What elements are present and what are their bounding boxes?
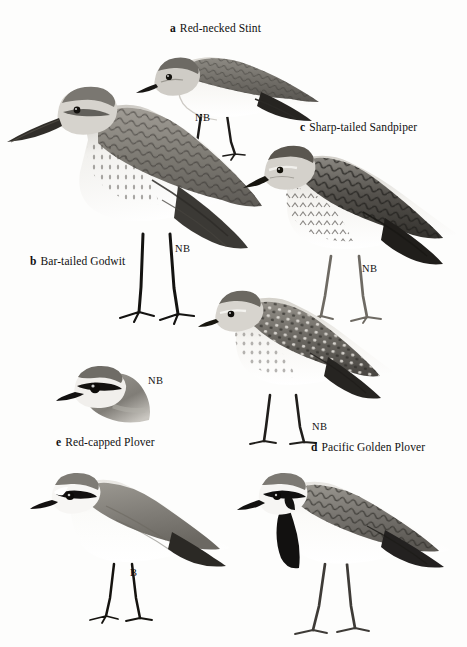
- rcpB-legs: [90, 564, 152, 623]
- rcpB-bill: [30, 500, 58, 509]
- plumage-label-redcapped-breeding: B: [130, 567, 137, 578]
- caption-red-capped-plover: eRed-capped Plover: [56, 436, 155, 448]
- bandedplover-eye: [273, 492, 281, 500]
- caption-name-a: Red-necked Stint: [180, 22, 261, 34]
- caption-name-d: Pacific Golden Plover: [322, 441, 426, 453]
- sharptailed-eye: [277, 167, 283, 173]
- caption-sharp-tailed-sandpiper: cSharp-tailed Sandpiper: [300, 121, 417, 133]
- plumage-label-sharptailed: NB: [362, 263, 377, 274]
- godwit-eye: [74, 107, 81, 114]
- caption-letter-a: a: [170, 22, 176, 34]
- bandedplover-legs: [295, 564, 369, 634]
- plumage-label-redcapped-head: NB: [148, 375, 163, 386]
- illustration-plate: aRed-necked Stint cSharp-tailed Sandpipe…: [0, 0, 467, 647]
- stint-eye: [166, 74, 172, 80]
- caption-bar-tailed-godwit: bBar-tailed Godwit: [30, 255, 125, 267]
- rcp-head-eye: [90, 383, 100, 393]
- caption-name-c: Sharp-tailed Sandpiper: [309, 121, 417, 133]
- bird-red-capped-plover-breeding: [28, 470, 243, 635]
- bird-red-capped-plover-head: [55, 358, 165, 430]
- caption-letter-c: c: [300, 121, 305, 133]
- bird-banded-plover: [233, 472, 463, 642]
- plumage-label-godwit: NB: [175, 243, 190, 254]
- caption-pacific-golden-plover: dPacific Golden Plover: [311, 441, 425, 453]
- caption-name-e: Red-capped Plover: [65, 436, 155, 448]
- goldenplover-bill: [198, 319, 219, 327]
- plumage-label-stint: NB: [195, 112, 210, 123]
- rcpB-eye: [66, 492, 74, 500]
- caption-letter-b: b: [30, 255, 37, 267]
- goldenplover-legs: [250, 395, 316, 444]
- caption-name-b: Bar-tailed Godwit: [41, 255, 126, 267]
- bandedplover-bill: [237, 500, 265, 510]
- bird-pacific-golden-plover: [200, 285, 400, 445]
- caption-red-necked-stint: aRed-necked Stint: [170, 22, 261, 34]
- caption-letter-d: d: [311, 441, 318, 453]
- sharptailed-bill: [243, 176, 269, 188]
- goldenplover-eye: [228, 311, 235, 318]
- caption-letter-e: e: [56, 436, 61, 448]
- plumage-label-goldenplover: NB: [312, 421, 327, 432]
